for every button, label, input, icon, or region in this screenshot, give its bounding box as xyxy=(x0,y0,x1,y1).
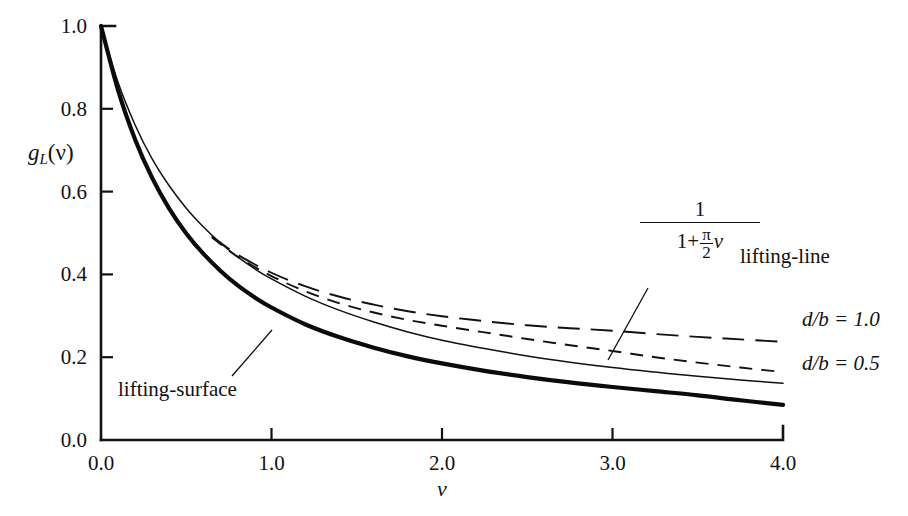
x-tick-labels: 0.01.02.03.04.0 xyxy=(88,451,796,475)
formula-two: 2 xyxy=(700,244,713,261)
y-axis-title: gL(ν) xyxy=(28,140,74,168)
x-tick-marks xyxy=(272,428,613,440)
label-db-1-0: d/b = 1.0 xyxy=(802,308,880,331)
y-tick-label: 0.6 xyxy=(61,180,87,204)
label-lifting-surface: lifting-surface xyxy=(118,378,237,401)
y-tick-label: 0.4 xyxy=(61,262,88,286)
y-axis-title-arg: (ν) xyxy=(48,140,74,165)
y-axis-line xyxy=(101,26,115,440)
x-axis-title-group: ν xyxy=(437,476,447,501)
label-lifting-line: lifting-line xyxy=(740,245,830,268)
formula-fraction-bar xyxy=(640,222,760,223)
label-db-0-5-text: d/b = 0.5 xyxy=(802,351,880,375)
formula-pi: π xyxy=(700,226,713,243)
x-tick-label: 0.0 xyxy=(88,451,114,475)
figure-canvas: 0.00.20.40.60.81.0 0.01.02.03.04.0 ν gL(… xyxy=(0,0,908,516)
x-tick-label: 1.0 xyxy=(258,451,284,475)
leader-line-formula xyxy=(608,288,648,360)
x-axis-title: ν xyxy=(437,476,447,501)
formula-nu: ν xyxy=(714,229,723,253)
leader-line-lifting-surface xyxy=(232,330,272,376)
y-tick-label: 0.2 xyxy=(61,345,87,369)
formula-denominator-lead: 1+ xyxy=(677,229,699,253)
formula-numerator: 1 xyxy=(640,198,760,221)
label-db-0-5: d/b = 0.5 xyxy=(802,352,880,375)
formula-pi-over-two: π2 xyxy=(700,226,713,261)
y-tick-label: 1.0 xyxy=(61,14,87,38)
label-db-1-0-text: d/b = 1.0 xyxy=(802,307,880,331)
y-axis-title-g: g xyxy=(28,140,40,165)
y-tick-label: 0.0 xyxy=(61,428,87,452)
y-tick-marks xyxy=(101,109,113,357)
y-tick-labels: 0.00.20.40.60.81.0 xyxy=(61,14,88,452)
x-tick-label: 2.0 xyxy=(429,451,455,475)
y-tick-label: 0.8 xyxy=(61,97,87,121)
y-axis-title-subscript: L xyxy=(40,151,48,167)
x-tick-label: 4.0 xyxy=(770,451,796,475)
x-tick-label: 3.0 xyxy=(599,451,625,475)
